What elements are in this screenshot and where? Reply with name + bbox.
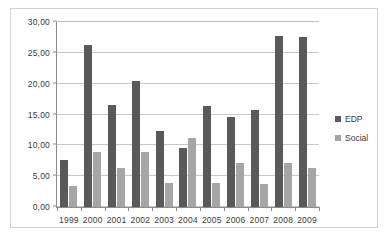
bar-group-1999: 1999 xyxy=(57,22,81,207)
x-axis-tick-mark xyxy=(176,207,177,211)
bar-social-2006 xyxy=(236,163,244,207)
x-axis-label-1999: 1999 xyxy=(59,215,79,225)
bar-social-2000 xyxy=(93,152,101,208)
bar-group-2003: 2003 xyxy=(152,22,176,207)
x-axis-tick-mark xyxy=(57,207,58,211)
y-axis-tick-label: 0,00 xyxy=(33,202,50,212)
bar-group-2006: 2006 xyxy=(224,22,248,207)
legend-swatch-social-icon xyxy=(335,135,341,141)
bar-social-2008 xyxy=(284,163,292,207)
legend-label-edp: EDP xyxy=(345,114,362,124)
legend-item-edp[interactable]: EDP xyxy=(335,114,368,124)
chart-legend: EDPSocial xyxy=(335,114,368,143)
y-axis-tick-label: 30,00 xyxy=(28,17,50,27)
bar-edp-2003 xyxy=(156,131,164,207)
bar-edp-2002 xyxy=(132,81,140,207)
bar-group-2009: 2009 xyxy=(295,22,319,207)
bar-group-2008: 2008 xyxy=(271,22,295,207)
y-axis-tick-label: 15,00 xyxy=(28,110,50,120)
y-axis-tick-label: 25,00 xyxy=(28,48,50,58)
bar-edp-2006 xyxy=(227,117,235,207)
bar-edp-2007 xyxy=(251,110,259,207)
bar-groups: 1999200020012002200320042005200620072008… xyxy=(57,22,319,207)
y-axis-tick-label: 10,00 xyxy=(28,140,50,150)
bar-social-2005 xyxy=(212,183,220,207)
x-axis-label-2002: 2002 xyxy=(130,215,150,225)
x-axis-label-2004: 2004 xyxy=(178,215,198,225)
bar-edp-2004 xyxy=(179,148,187,207)
bar-edp-2000 xyxy=(84,45,92,207)
bar-edp-2001 xyxy=(108,105,116,207)
x-axis-tick-mark xyxy=(152,207,153,211)
plot-area: 0,005,0010,0015,0020,0025,0030,00 199920… xyxy=(57,22,319,207)
x-axis-tick-mark xyxy=(128,207,129,211)
bar-group-2002: 2002 xyxy=(128,22,152,207)
x-axis-label-2000: 2000 xyxy=(83,215,103,225)
legend-swatch-edp-icon xyxy=(335,116,341,122)
x-axis-tick-mark xyxy=(224,207,225,211)
x-axis-tick-mark xyxy=(200,207,201,211)
bar-social-2009 xyxy=(308,168,316,207)
bar-social-2004 xyxy=(188,138,196,207)
x-axis-label-2009: 2009 xyxy=(297,215,317,225)
x-axis-tick-mark xyxy=(271,207,272,211)
x-axis-line xyxy=(56,207,319,208)
bar-social-2001 xyxy=(117,168,125,207)
bar-social-2002 xyxy=(141,152,149,207)
bar-edp-2005 xyxy=(203,106,211,207)
x-axis-label-2005: 2005 xyxy=(202,215,222,225)
legend-item-social[interactable]: Social xyxy=(335,133,368,143)
x-axis-tick-mark xyxy=(248,207,249,211)
x-axis-tick-mark xyxy=(319,207,320,211)
bar-social-2007 xyxy=(260,184,268,207)
bar-social-2003 xyxy=(165,183,173,207)
y-axis-tick-label: 20,00 xyxy=(28,79,50,89)
bar-group-2005: 2005 xyxy=(200,22,224,207)
bar-group-2001: 2001 xyxy=(105,22,129,207)
x-axis-label-2003: 2003 xyxy=(154,215,174,225)
x-axis-label-2007: 2007 xyxy=(250,215,270,225)
x-axis-tick-mark xyxy=(81,207,82,211)
x-axis-tick-mark xyxy=(295,207,296,211)
chart-container: 0,005,0010,0015,0020,0025,0030,00 199920… xyxy=(10,8,378,228)
x-axis-tick-mark xyxy=(105,207,106,211)
y-axis-tick-label: 5,00 xyxy=(33,171,50,181)
bar-group-2007: 2007 xyxy=(248,22,272,207)
bar-edp-1999 xyxy=(60,160,68,207)
bar-edp-2009 xyxy=(299,37,307,207)
bar-social-1999 xyxy=(69,186,77,207)
x-axis-label-2006: 2006 xyxy=(226,215,246,225)
legend-label-social: Social xyxy=(345,133,368,143)
x-axis-label-2001: 2001 xyxy=(107,215,127,225)
bar-edp-2008 xyxy=(275,36,283,207)
x-axis-label-2008: 2008 xyxy=(273,215,293,225)
bar-group-2004: 2004 xyxy=(176,22,200,207)
bar-group-2000: 2000 xyxy=(81,22,105,207)
